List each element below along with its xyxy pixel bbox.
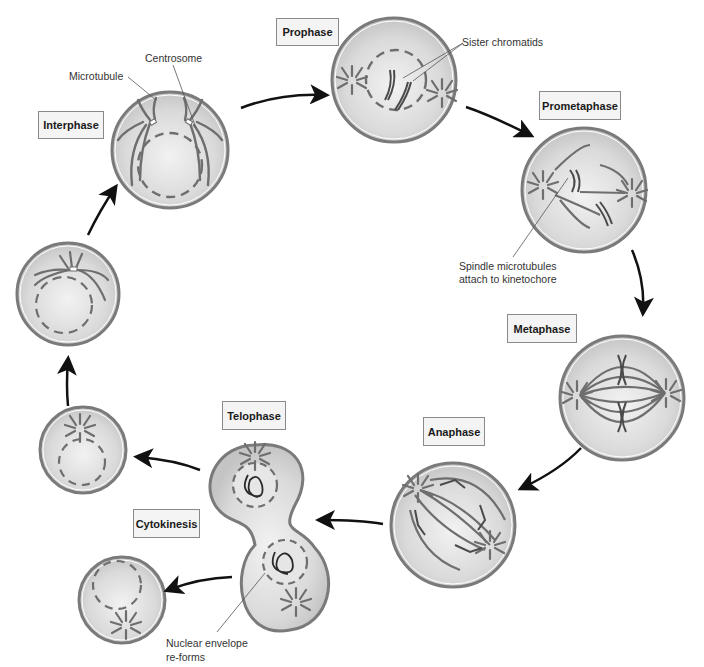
label-metaphase: Metaphase <box>507 314 577 343</box>
annotation-microtubule: Microtubule <box>69 70 123 83</box>
daughter-cell-growing <box>17 243 119 345</box>
metaphase-cell <box>560 336 684 460</box>
label-telophase: Telophase <box>222 401 286 430</box>
prophase-cell <box>332 18 457 142</box>
interphase-cell <box>112 92 228 208</box>
arrow-prophase-to-prometaphase <box>466 107 530 135</box>
label-cytokinesis: Cytokinesis <box>133 509 200 538</box>
arrow-to-interphase <box>88 188 115 235</box>
arrow-daughter-grow <box>67 360 68 406</box>
telophase-cell <box>210 442 329 631</box>
label-prophase: Prophase <box>276 18 339 46</box>
label-prometaphase: Prometaphase <box>539 91 621 120</box>
arrow-metaphase-to-anaphase <box>522 448 581 488</box>
annotation-nuclear-line2: re-forms <box>166 651 205 664</box>
label-interphase: Interphase <box>38 111 104 139</box>
prometaphase-cell <box>522 128 647 252</box>
annotation-spindle-line2: attach to kinetochore <box>459 273 556 286</box>
annotation-centrosome: Centrosome <box>145 52 202 65</box>
arrow-prometaphase-to-metaphase <box>632 250 643 312</box>
arrow-anaphase-to-telophase <box>320 520 383 524</box>
annotation-spindle-line1: Spindle microtubules <box>459 260 556 273</box>
cytokinesis-daughter-cell <box>79 557 165 643</box>
arrow-telophase-to-cytokinesis <box>168 577 232 590</box>
label-anaphase: Anaphase <box>423 417 485 446</box>
arrow-telophase-to-daughter <box>138 457 200 470</box>
annotation-sister-chromatids: Sister chromatids <box>462 36 543 49</box>
anaphase-cell <box>391 463 515 587</box>
annotation-nuclear-line1: Nuclear envelope <box>166 637 248 650</box>
arrow-interphase-to-prophase <box>241 95 325 108</box>
daughter-cell-small <box>40 407 126 493</box>
